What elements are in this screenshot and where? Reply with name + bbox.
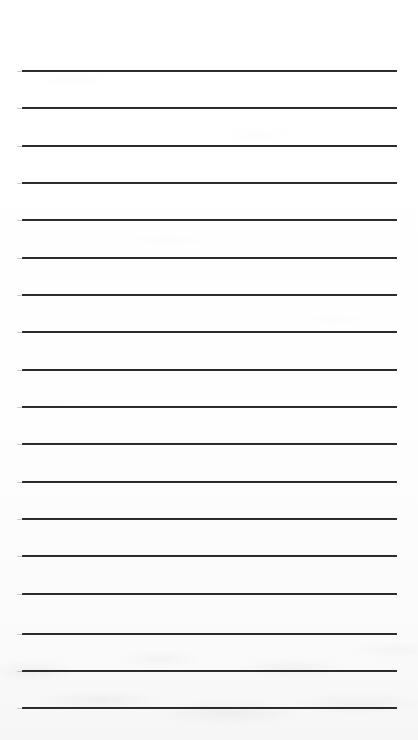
ruled-line	[22, 107, 397, 109]
ruled-line	[22, 331, 397, 333]
scan-noise-lower	[0, 560, 418, 740]
scan-noise-upper	[0, 0, 418, 560]
ruled-line	[22, 257, 397, 259]
ruled-line	[22, 707, 397, 709]
ruled-line	[22, 443, 397, 445]
ruled-line	[22, 369, 397, 371]
scanned-paper-page	[0, 0, 418, 740]
ruled-line	[22, 219, 397, 221]
ruled-line	[22, 294, 397, 296]
ruled-line	[22, 182, 397, 184]
ruled-line	[22, 593, 397, 595]
ruled-line	[22, 670, 397, 672]
ruled-line	[22, 481, 397, 483]
ruled-line	[22, 518, 397, 520]
ruled-line	[22, 70, 397, 72]
ruled-line	[22, 406, 397, 408]
ruled-line	[22, 555, 397, 557]
ruled-line	[22, 145, 397, 147]
ruled-line	[22, 633, 397, 635]
